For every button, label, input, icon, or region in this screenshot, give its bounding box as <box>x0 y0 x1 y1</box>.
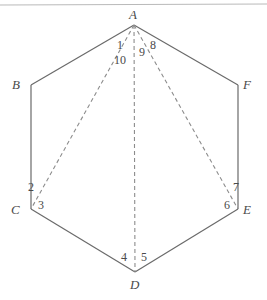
vertex-label-c: C <box>11 203 20 216</box>
top-divider-rule <box>0 4 267 5</box>
vertex-label-f: F <box>243 78 251 91</box>
vertex-label-a: A <box>129 8 137 21</box>
edge-c-d <box>31 209 135 272</box>
angle-label-8: 8 <box>150 39 156 51</box>
vertex-label-e: E <box>243 203 251 216</box>
angle-label-10: 10 <box>114 54 126 66</box>
hexagon-diagram-canvas <box>0 0 267 300</box>
angle-label-6: 6 <box>224 199 230 211</box>
hexagon-figure: A B C D E F 1 2 3 4 5 6 7 8 9 10 <box>0 0 267 300</box>
angle-label-1: 1 <box>117 39 123 51</box>
angle-label-5: 5 <box>141 251 147 263</box>
angle-label-7: 7 <box>233 181 239 193</box>
angle-label-2: 2 <box>28 181 34 193</box>
diagonals-group <box>31 25 238 272</box>
angle-label-3: 3 <box>38 199 44 211</box>
diagonal-a-d <box>134 25 135 272</box>
vertex-label-d: D <box>130 278 139 291</box>
diagonal-a-e <box>134 25 238 209</box>
edge-d-e <box>135 209 238 272</box>
edge-f-a <box>134 25 238 85</box>
angle-label-9: 9 <box>139 46 145 58</box>
vertex-label-b: B <box>12 78 20 91</box>
angle-label-4: 4 <box>121 251 127 263</box>
